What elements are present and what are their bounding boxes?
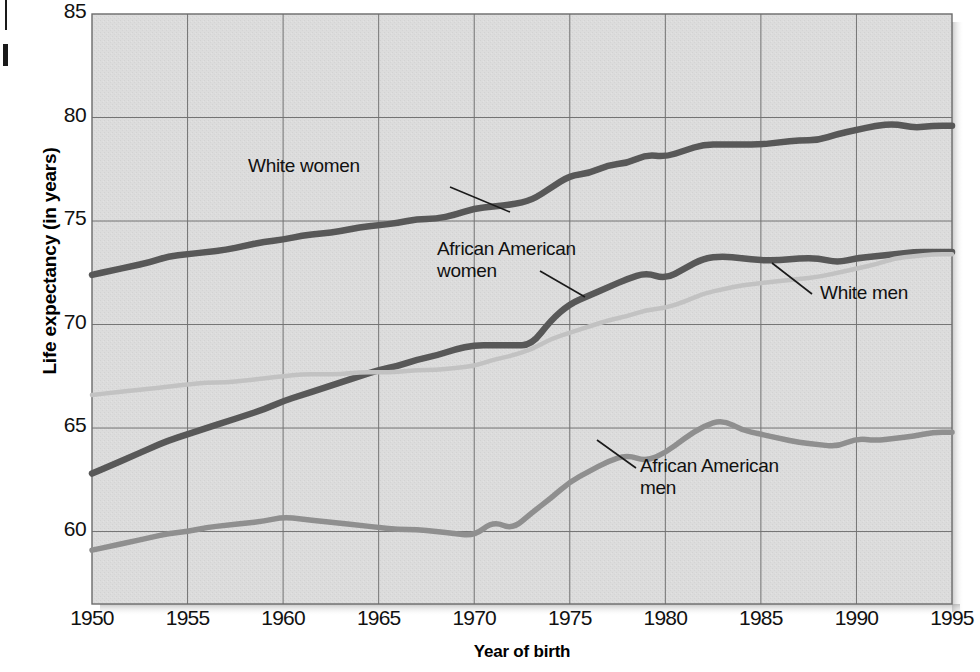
series-label-african-american-women: African American women	[437, 238, 576, 283]
x-tick-label: 1965	[339, 606, 419, 630]
y-tick-labels: 858075706560	[0, 0, 86, 672]
plot-shadow-right	[952, 22, 964, 612]
series-label-white-women: White women	[248, 155, 360, 177]
x-tick-label: 1990	[816, 606, 896, 630]
y-tick-label: 65	[22, 413, 86, 437]
x-tick-label: 1955	[148, 606, 228, 630]
figure-root: Life expectancy (in years) Year of birth…	[0, 0, 980, 672]
series-label-african-american-men: African American men	[640, 455, 779, 500]
x-tick-label: 1950	[52, 606, 132, 630]
y-tick-label: 85	[22, 0, 86, 23]
y-tick-label: 80	[22, 103, 86, 127]
series-label-white-men: White men	[820, 282, 908, 304]
plot-background	[92, 14, 952, 604]
x-tick-label: 1960	[243, 606, 323, 630]
y-tick-label: 70	[22, 310, 86, 334]
x-tick-label: 1985	[721, 606, 801, 630]
y-tick-label: 75	[22, 206, 86, 230]
x-tick-label: 1975	[530, 606, 610, 630]
x-tick-label: 1995	[912, 606, 980, 630]
x-axis-title: Year of birth	[92, 642, 952, 662]
x-tick-label: 1980	[625, 606, 705, 630]
x-tick-label: 1970	[434, 606, 514, 630]
line-chart-plot	[0, 0, 980, 672]
y-tick-label: 60	[22, 517, 86, 541]
